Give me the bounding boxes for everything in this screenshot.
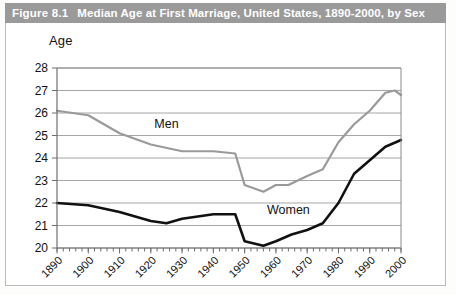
series-inline-labels-group: MenWomen <box>154 117 310 218</box>
x-axis-tick-label: 1980 <box>320 254 346 280</box>
x-axis-tick-label: 1900 <box>70 254 96 280</box>
figure-title-inner: Figure 8.1 Median Age at First Marriage,… <box>5 7 425 19</box>
x-axis-tick-label: 1990 <box>351 254 377 280</box>
y-axis-tick-label: 26 <box>35 106 49 120</box>
y-axis-ticks-group: 202122232425262728 <box>35 61 57 255</box>
line-chart-plot: 202122232425262728 189019001910192019301… <box>5 22 446 286</box>
y-axis-tick-label: 21 <box>35 219 49 233</box>
x-axis-tick-label: 1920 <box>132 254 158 280</box>
x-axis-tick-label: 1910 <box>101 254 127 280</box>
figure-number-label: Figure 8.1 <box>12 7 68 19</box>
figure-title-bar: Figure 8.1 Median Age at First Marriage,… <box>5 3 446 23</box>
y-axis-tick-label: 20 <box>35 241 49 255</box>
series-label-women: Women <box>267 203 310 217</box>
y-axis-tick-label: 27 <box>35 84 49 98</box>
chart-area: Age 202122232425262728 18901900191019201… <box>5 22 446 286</box>
gridlines-group <box>57 68 401 248</box>
x-axis-ticks-group: 1890190019101920193019401950196019701980… <box>39 248 409 280</box>
x-axis-tick-label: 1960 <box>258 254 284 280</box>
x-axis-tick-label: 1930 <box>164 254 190 280</box>
series-line-women <box>57 140 401 246</box>
series-label-men: Men <box>154 117 178 131</box>
x-axis-tick-label: 1890 <box>39 254 65 280</box>
y-axis-tick-label: 25 <box>35 129 49 143</box>
x-axis-tick-label: 1940 <box>195 254 221 280</box>
x-axis-tick-label: 2000 <box>383 254 409 280</box>
y-axis-tick-label: 22 <box>35 196 49 210</box>
x-axis-tick-label: 1970 <box>289 254 315 280</box>
figure-title-text: Median Age at First Marriage, United Sta… <box>77 7 425 19</box>
y-axis-tick-label: 23 <box>35 174 49 188</box>
x-axis-tick-label: 1950 <box>226 254 252 280</box>
y-axis-tick-label: 28 <box>35 61 49 75</box>
y-axis-tick-label: 24 <box>35 151 49 165</box>
series-lines-group <box>57 91 401 246</box>
series-line-men <box>57 91 401 192</box>
figure-root: Figure 8.1 Median Age at First Marriage,… <box>0 0 456 295</box>
